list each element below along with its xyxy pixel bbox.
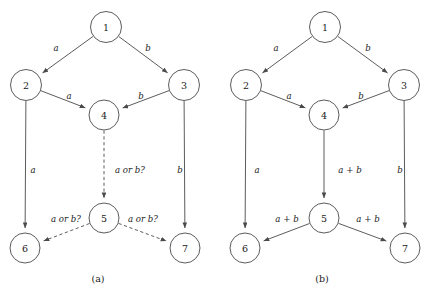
edge-label-panel-a-4-to-5: a or b? xyxy=(115,165,145,175)
nodes-group: 12345671234567 xyxy=(10,12,420,264)
node-label-panel-a-1: 1 xyxy=(103,22,109,33)
edge-label-panel-b-4-to-5: a + b xyxy=(338,165,361,175)
edge-panel-a-1-to-3 xyxy=(119,37,168,73)
graph-canvas: 12345671234567 abababa or b?a or b?a or … xyxy=(0,0,430,293)
edge-label-panel-b-3-to-7: b xyxy=(397,165,403,175)
edge-panel-b-2-to-4 xyxy=(261,91,305,108)
node-label-panel-a-7: 7 xyxy=(182,243,188,254)
node-label-panel-b-5: 5 xyxy=(321,213,327,224)
node-label-panel-a-5: 5 xyxy=(101,213,107,224)
edge-panel-a-3-to-4 xyxy=(123,91,169,108)
edge-panel-a-2-to-4 xyxy=(41,91,85,108)
node-label-panel-b-4: 4 xyxy=(321,110,327,121)
edge-panel-b-1-to-2 xyxy=(263,36,313,72)
edge-label-panel-a-5-to-7: a or b? xyxy=(128,214,158,224)
edge-labels-group: abababa or b?a or b?a or b?abababa + ba … xyxy=(30,43,402,224)
edge-label-panel-a-2-to-4: a xyxy=(66,91,71,101)
edge-label-panel-b-5-to-7: a + b xyxy=(356,214,379,224)
node-label-panel-a-4: 4 xyxy=(101,110,107,121)
captions-group: (a)(b) xyxy=(91,273,328,284)
edge-label-panel-a-1-to-3: b xyxy=(145,43,151,53)
edge-panel-a-5-to-7 xyxy=(119,223,167,241)
figure-root: 12345671234567 abababa or b?a or b?a or … xyxy=(0,0,430,293)
edge-label-panel-a-5-to-6: a or b? xyxy=(51,214,81,224)
node-label-panel-b-3: 3 xyxy=(401,80,407,91)
node-label-panel-a-6: 6 xyxy=(22,243,28,254)
caption-panel-b: (b) xyxy=(315,273,329,284)
node-label-panel-a-2: 2 xyxy=(23,80,29,91)
edge-panel-b-2-to-6 xyxy=(245,101,246,228)
edge-panel-b-5-to-6 xyxy=(264,224,310,241)
edge-label-panel-b-5-to-6: a + b xyxy=(275,214,298,224)
edge-label-panel-b-2-to-6: a xyxy=(254,165,259,175)
node-label-panel-b-7: 7 xyxy=(402,243,408,254)
caption-panel-a: (a) xyxy=(91,273,104,284)
edge-panel-b-5-to-7 xyxy=(339,223,387,241)
node-label-panel-a-3: 3 xyxy=(181,80,187,91)
edge-label-panel-a-2-to-6: a xyxy=(30,165,35,175)
edge-label-panel-a-3-to-4: b xyxy=(138,91,144,101)
edge-panel-b-3-to-4 xyxy=(343,91,389,108)
edge-label-panel-a-3-to-7: b xyxy=(177,165,183,175)
edge-panel-a-3-to-7 xyxy=(184,101,185,228)
edge-panel-a-2-to-6 xyxy=(25,101,26,228)
node-label-panel-b-6: 6 xyxy=(242,243,248,254)
edge-panel-b-1-to-3 xyxy=(338,36,388,72)
edge-panel-b-3-to-7 xyxy=(404,101,405,228)
edge-label-panel-a-1-to-2: a xyxy=(53,43,58,53)
node-label-panel-b-2: 2 xyxy=(243,80,249,91)
edge-panel-a-1-to-2 xyxy=(43,36,93,73)
edge-label-panel-b-1-to-3: b xyxy=(365,43,371,53)
edge-label-panel-b-1-to-2: a xyxy=(273,43,278,53)
edge-label-panel-b-2-to-4: a xyxy=(286,91,291,101)
node-label-panel-b-1: 1 xyxy=(322,22,328,33)
edge-label-panel-b-3-to-4: b xyxy=(358,91,364,101)
edge-panel-a-5-to-6 xyxy=(44,224,90,241)
edges-group xyxy=(25,36,405,241)
